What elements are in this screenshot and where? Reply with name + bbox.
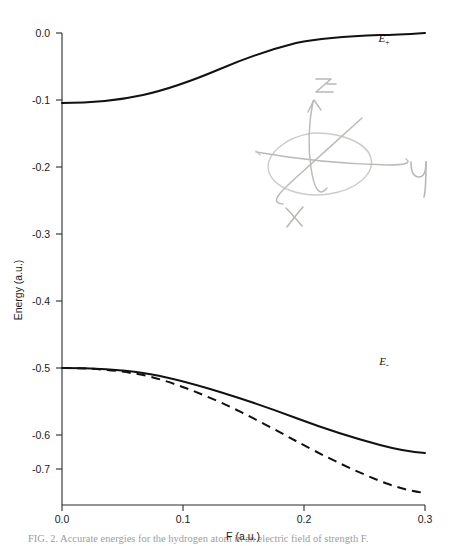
pencil-sketch-annotation bbox=[256, 79, 426, 227]
pencil-y-axis bbox=[256, 152, 408, 165]
y-axis-ticks bbox=[56, 33, 62, 469]
x-tick-label: 0.1 bbox=[176, 513, 191, 525]
pencil-label-z bbox=[316, 79, 336, 92]
curve-dashed-perturbation bbox=[62, 368, 425, 493]
x-axis-tick-labels: 0.0 0.1 0.2 0.3 bbox=[55, 513, 433, 525]
figure-caption-strip: FIG. 2. Accurate energies for the hydrog… bbox=[0, 534, 460, 546]
y-tick-label: -0.6 bbox=[32, 429, 50, 441]
y-tick-label: -0.2 bbox=[32, 161, 50, 173]
figure-container: 0.0 -0.1 -0.2 -0.3 -0.4 -0.5 -0.6 -0.7 0… bbox=[0, 0, 460, 546]
figure-caption: FIG. 2. Accurate energies for the hydrog… bbox=[28, 534, 438, 545]
y-tick-label: -0.4 bbox=[32, 295, 50, 307]
curve-e-plus bbox=[62, 33, 425, 103]
y-axis-tick-labels: 0.0 -0.1 -0.2 -0.3 -0.4 -0.5 -0.6 -0.7 bbox=[32, 27, 50, 475]
y-tick-label: -0.3 bbox=[32, 228, 50, 240]
y-tick-label: 0.0 bbox=[35, 27, 50, 39]
y-tick-label: -0.7 bbox=[32, 463, 50, 475]
pencil-z-arrow bbox=[308, 100, 321, 112]
x-axis-ticks bbox=[62, 505, 425, 511]
x-tick-label: 0.0 bbox=[55, 513, 70, 525]
pencil-label-x bbox=[286, 207, 303, 227]
y-tick-label: -0.5 bbox=[32, 362, 50, 374]
pencil-z-axis bbox=[309, 101, 327, 192]
y-axis-title: Energy (a.u.) bbox=[12, 260, 24, 321]
pencil-label-y bbox=[411, 162, 426, 197]
series-label-e-minus: E- bbox=[378, 355, 389, 370]
x-tick-label: 0.2 bbox=[297, 513, 312, 525]
energy-vs-field-chart: 0.0 -0.1 -0.2 -0.3 -0.4 -0.5 -0.6 -0.7 0… bbox=[0, 0, 460, 546]
curve-e-minus bbox=[62, 368, 425, 453]
x-tick-label: 0.3 bbox=[418, 513, 433, 525]
chart-axes bbox=[62, 33, 425, 505]
y-tick-label: -0.1 bbox=[32, 94, 50, 106]
